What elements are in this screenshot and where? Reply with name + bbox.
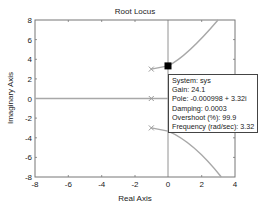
svg-text:2: 2 [199,180,204,189]
x-axis-label: Real Axis [118,194,151,203]
svg-text:-6: -6 [25,153,33,162]
datatip-gain: Gain: 24.1 [172,85,254,94]
svg-text:0: 0 [28,95,33,104]
svg-text:8: 8 [28,16,33,25]
y-axis-label: Imaginary Axis [6,72,15,124]
datatip-system: System: sys [172,76,254,85]
datatip-overshoot: Overshoot (%): 99.9 [172,113,254,122]
svg-text:-4: -4 [25,134,33,143]
svg-text:0: 0 [166,180,171,189]
svg-text:4: 4 [28,55,33,64]
chart-title: Root Locus [115,7,155,16]
datatip-box[interactable]: System: sys Gain: 24.1 Pole: -0.000998 +… [168,74,258,133]
svg-text:-6: -6 [65,180,73,189]
datatip-damping: Damping: 0.0003 [172,104,254,113]
svg-text:-2: -2 [131,180,139,189]
svg-text:-2: -2 [25,114,33,123]
datatip-frequency: Frequency (rad/sec): 3.32 [172,122,254,131]
svg-text:2: 2 [28,75,33,84]
datatip-marker[interactable] [165,62,172,69]
svg-text:6: 6 [28,36,33,45]
svg-text:4: 4 [233,180,238,189]
svg-text:-8: -8 [25,173,33,182]
y-tick-labels: 8 6 4 2 0 -2 -4 -6 -8 [25,16,33,182]
svg-text:-8: -8 [31,180,39,189]
svg-text:-4: -4 [98,180,106,189]
datatip-pole: Pole: -0.000998 + 3.32i [172,94,254,103]
x-tick-labels: -8 -6 -4 -2 0 2 4 [31,180,237,189]
